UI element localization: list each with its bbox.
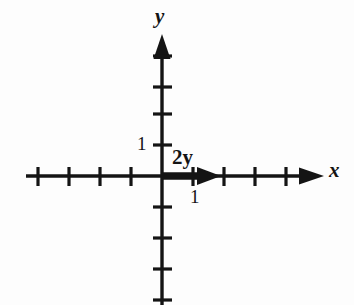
x-axis-label: x <box>329 160 340 181</box>
vector-2y-arrowhead <box>197 167 221 185</box>
y-axis-group <box>153 34 172 305</box>
vector-label-2y: 2y <box>172 147 193 168</box>
figure-canvas: y x 1 1 2y <box>0 0 354 305</box>
x-axis-arrowhead <box>299 168 324 185</box>
y-unit-tick-label: 1 <box>137 134 147 153</box>
x-unit-tick-label: 1 <box>190 187 200 206</box>
y-axis-label: y <box>155 6 164 27</box>
